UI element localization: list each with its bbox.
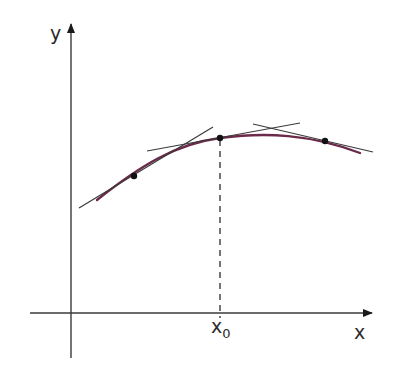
concave-curve [97,135,360,200]
point-p3 [322,138,328,144]
y-axis-label: y [50,22,61,44]
x-axis-label: x [354,321,365,343]
point-p1 [131,173,137,179]
x0-label-main: x [211,315,222,337]
x0-label: x0 [211,315,231,341]
tangent-diagram: y x x0 [0,0,394,365]
point-x0 [217,135,223,141]
tangent-line-p1 [79,127,213,208]
x0-label-subscript: 0 [222,326,230,341]
tangent-line-p3 [253,124,373,152]
tangent-line-x0 [147,123,300,151]
